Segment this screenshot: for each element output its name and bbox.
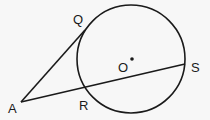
label-A: A [8, 101, 17, 116]
label-R: R [79, 98, 88, 113]
label-O: O [118, 60, 128, 75]
diagram-svg: Q O S R A [0, 0, 210, 120]
label-S: S [191, 60, 200, 75]
center-point-dot [130, 57, 134, 61]
geometry-diagram: Q O S R A [0, 0, 210, 120]
tangent-segment-AQ [21, 30, 85, 102]
secant-segment-AS [21, 64, 185, 102]
label-Q: Q [73, 12, 83, 27]
